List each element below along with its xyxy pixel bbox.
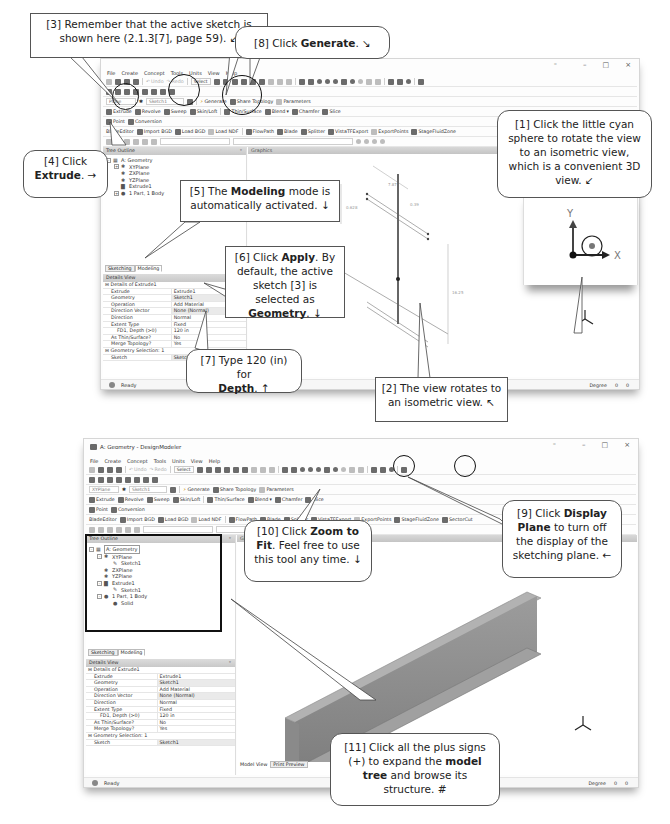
skin-loft-button[interactable]: Skin/Loft xyxy=(190,109,218,115)
zoom-to-fit-icon[interactable] xyxy=(316,467,321,472)
sweep-button[interactable]: Sweep xyxy=(147,497,170,503)
revolve-button[interactable]: Revolve xyxy=(118,497,144,503)
new-icon[interactable] xyxy=(89,467,95,473)
parameters-button[interactable]: Parameters xyxy=(259,487,293,493)
select-mode-button[interactable]: Select xyxy=(174,466,194,473)
thin-surface-button[interactable]: Thin/Surface xyxy=(207,497,244,503)
menu-tools[interactable]: Tools xyxy=(154,458,166,464)
share-topology-button[interactable]: Share Topology xyxy=(213,487,257,493)
new-sketch-icon[interactable] xyxy=(98,477,104,483)
pan-icon[interactable] xyxy=(291,467,297,473)
menu-file[interactable]: File xyxy=(107,70,115,76)
hide-icon[interactable] xyxy=(277,79,283,85)
tree-item-geometry[interactable]: –▦A: Geometry xyxy=(106,157,246,164)
magnifier-icon[interactable] xyxy=(324,467,330,473)
plane-axis-icon[interactable]: ✱ xyxy=(139,99,143,104)
zoom-icon[interactable] xyxy=(300,467,305,472)
slice-button[interactable]: Slice xyxy=(322,109,340,115)
extrude-button[interactable]: Extrude xyxy=(89,497,115,503)
look-at-icon[interactable] xyxy=(418,79,424,85)
stage-fluid-zone-button[interactable]: StageFluidZone xyxy=(394,517,439,523)
load-bgd-button[interactable]: Load BGD xyxy=(158,517,189,523)
import-bgd-button[interactable]: Import BGD xyxy=(137,129,172,135)
menu-concept[interactable]: Concept xyxy=(144,70,165,76)
previous-view-icon[interactable] xyxy=(366,79,372,85)
zoom-to-fit-icon[interactable] xyxy=(333,79,338,84)
plane-axis-icon[interactable]: ✱ xyxy=(122,487,126,492)
extend-icon[interactable] xyxy=(268,79,274,85)
blade-editor-button[interactable]: BladeEditor xyxy=(89,517,117,522)
new-plane-icon[interactable] xyxy=(106,89,112,95)
chamfer-button[interactable]: Chamfer xyxy=(275,497,303,503)
pan-icon[interactable] xyxy=(308,79,314,85)
pin-icon[interactable]: ⁼ xyxy=(553,441,556,449)
show-icon[interactable] xyxy=(269,467,275,473)
select-pointer-icon[interactable] xyxy=(197,467,203,473)
filter-combo-2[interactable] xyxy=(233,138,353,145)
sketch-tool-3-icon[interactable] xyxy=(125,477,131,483)
screenshot-icon[interactable] xyxy=(116,467,122,473)
slice-button[interactable]: Slice xyxy=(305,497,323,503)
filter-combo-1[interactable] xyxy=(160,138,230,145)
select-box-icon[interactable] xyxy=(206,467,212,473)
blade-editor-button[interactable]: BladeEditor xyxy=(106,129,134,134)
select-body-icon[interactable] xyxy=(259,79,265,85)
save-icon[interactable] xyxy=(98,467,104,473)
zoom-in-icon[interactable] xyxy=(333,467,338,472)
expand-icon[interactable]: + xyxy=(114,191,119,196)
export-icon[interactable] xyxy=(107,467,113,473)
menu-create[interactable]: Create xyxy=(121,70,138,76)
next-view-icon[interactable] xyxy=(358,467,364,473)
display-plane-icon[interactable] xyxy=(388,79,394,85)
select-edge-icon[interactable] xyxy=(224,467,230,473)
tab-model-view[interactable]: Model View xyxy=(237,761,270,768)
magnifier-icon[interactable] xyxy=(341,79,347,85)
new-icon[interactable] xyxy=(106,79,112,85)
sketch-tool-2-icon[interactable] xyxy=(116,477,122,483)
redo-button[interactable]: ↷Redo xyxy=(150,467,167,472)
axis-triad[interactable] xyxy=(572,713,594,735)
tab-sketching[interactable]: Sketching xyxy=(105,265,135,272)
blade-button[interactable]: Blade xyxy=(277,129,298,135)
display-model-icon[interactable] xyxy=(397,79,403,85)
flowpath-button[interactable]: FlowPath xyxy=(246,129,275,135)
blend-button[interactable]: Blend ▾ xyxy=(265,109,289,115)
conversion-button[interactable]: Conversion xyxy=(111,507,145,513)
display-plane-icon[interactable] xyxy=(371,467,377,473)
undo-button[interactable]: ↶Undo xyxy=(129,467,147,472)
depth-field[interactable]: 120 in xyxy=(172,328,189,334)
menu-help[interactable]: Help xyxy=(209,458,220,464)
menu-file[interactable]: File xyxy=(90,458,98,464)
sketch-tool-3-icon[interactable] xyxy=(142,89,148,95)
hide-icon[interactable] xyxy=(260,467,266,473)
tree-item-zxplane[interactable]: ✱ZXPlane xyxy=(106,170,246,177)
rotate-icon[interactable] xyxy=(282,467,288,473)
isometric-sphere-icon[interactable] xyxy=(589,243,595,249)
previous-view-icon[interactable] xyxy=(349,467,355,473)
minimize-button[interactable]: – xyxy=(582,441,586,449)
sketch-tool-5-icon[interactable] xyxy=(143,477,149,483)
maximize-button[interactable]: □ xyxy=(602,441,609,449)
zoom-out-icon[interactable] xyxy=(358,79,363,84)
filter-combo-1[interactable] xyxy=(143,526,213,533)
splitter-button[interactable]: Splitter xyxy=(301,129,325,135)
select-body-icon[interactable] xyxy=(242,467,248,473)
rotate-icon[interactable] xyxy=(299,79,305,85)
display-model-icon[interactable] xyxy=(380,467,386,473)
conversion-button[interactable]: Conversion xyxy=(128,119,162,125)
close-button[interactable]: × xyxy=(624,441,630,449)
undo-button[interactable]: ↶Undo xyxy=(146,79,164,84)
active-plane-combo[interactable]: XYPlane xyxy=(89,486,119,493)
menu-units[interactable]: Units xyxy=(172,458,185,464)
box-zoom-icon[interactable] xyxy=(308,467,313,472)
sweep-button[interactable]: Sweep xyxy=(164,109,187,115)
active-sketch-combo[interactable]: Sketch1 xyxy=(129,486,167,493)
extend-icon[interactable] xyxy=(251,467,257,473)
sketch-tool-6-icon[interactable] xyxy=(152,477,158,483)
tab-sketching[interactable]: Sketching xyxy=(88,649,118,656)
load-bgd-button[interactable]: Load BGD xyxy=(175,129,206,135)
vista-tf-export-button[interactable]: VistaTFExport xyxy=(328,129,368,135)
menu-help[interactable]: Help xyxy=(226,70,237,76)
new-plane-icon[interactable] xyxy=(89,477,95,483)
select-face-icon[interactable] xyxy=(233,467,239,473)
